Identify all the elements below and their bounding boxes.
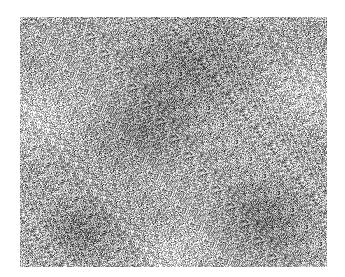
speckle-texture-canvas [20, 17, 327, 267]
texture-image [20, 17, 327, 267]
